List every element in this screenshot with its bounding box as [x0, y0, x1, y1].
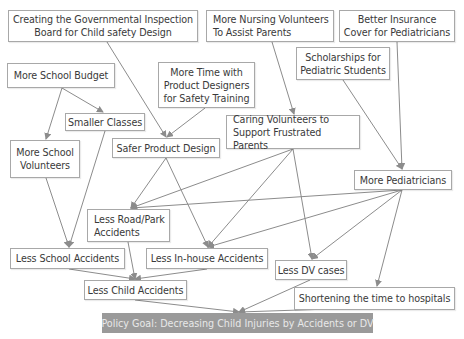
- arrow-school_budget-to-school_vol: [46, 88, 62, 139]
- node-less-road-park-accidents: Less Road/Park Accidents: [87, 209, 170, 242]
- arrow-road_park-to-child_acc: [128, 242, 135, 279]
- arrow-pediatricians-to-dv_cases: [312, 190, 402, 259]
- node-scholarships-pediatric-students: Scholarships for Pediatric Students: [296, 47, 390, 80]
- arrow-pediatricians-to-shorten_time: [377, 190, 402, 286]
- node-governmental-inspection-board: Creating the Governmental Inspection Boa…: [8, 10, 198, 42]
- diagram-canvas: Creating the Governmental Inspection Boa…: [0, 0, 464, 339]
- node-more-nursing-volunteers: More Nursing Volunteers To Assist Parent…: [206, 10, 334, 42]
- node-less-dv-cases: Less DV cases: [275, 260, 347, 280]
- node-safer-product-design: Safer Product Design: [112, 138, 220, 158]
- node-shortening-time-to-hospitals: Shortening the time to hospitals: [294, 287, 455, 310]
- node-more-school-budget: More School Budget: [7, 63, 115, 88]
- arrow-caring_vol-to-dv_cases: [293, 149, 312, 259]
- arrow-child_acc-to-goal: [135, 300, 239, 312]
- node-smaller-classes: Smaller Classes: [65, 113, 145, 131]
- node-less-school-accidents: Less School Accidents: [10, 248, 125, 269]
- arrow-safer_design-to-inhouse_acc: [166, 158, 208, 247]
- arrow-safer_design-to-road_park: [131, 158, 166, 208]
- arrow-inhouse_acc-to-child_acc: [135, 269, 207, 279]
- arrow-nursing_vol-to-caring_vol: [272, 42, 294, 114]
- node-more-pediatricians: More Pediatricians: [354, 170, 452, 190]
- arrow-school_vol-to-school_acc: [46, 178, 69, 247]
- policy-goal-banner: Policy Goal: Decreasing Child Injuries b…: [102, 313, 373, 333]
- arrow-product_designers-to-safer_design: [167, 108, 205, 137]
- node-caring-volunteers: Caring Volunteers to Support Frustrated …: [226, 115, 360, 149]
- node-more-school-volunteers: More School Volunteers: [10, 140, 80, 178]
- node-less-child-accidents: Less Child Accidents: [84, 280, 187, 300]
- arrow-school_budget-to-smaller_classes: [62, 88, 103, 112]
- arrow-insurance-to-pediatricians: [397, 42, 402, 169]
- node-product-designers-training: More Time with Product Designers for Saf…: [158, 62, 255, 108]
- arrow-school_acc-to-child_acc: [69, 269, 135, 279]
- node-less-inhouse-accidents: Less In-house Accidents: [146, 248, 268, 269]
- node-better-insurance-cover: Better Insurance Cover for Pediatricians: [339, 10, 455, 42]
- arrow-pediatricians-to-inhouse_acc: [208, 190, 402, 247]
